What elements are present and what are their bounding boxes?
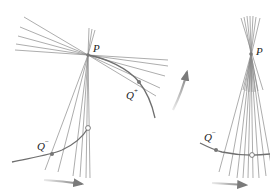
right-curve (200, 143, 270, 155)
label-Q-plus-sup: + (134, 87, 138, 95)
point-Q-minus-left (50, 152, 54, 156)
label-Q-minus-left: Q (37, 140, 45, 152)
motion-arrow-bottom-right-icon (212, 183, 246, 185)
point-Q-minus-right (214, 148, 218, 152)
label-Q-minus-right-sup: − (212, 129, 216, 137)
label-Q-plus: Q (126, 89, 134, 101)
open-circle-right (250, 153, 255, 158)
label-Q-minus-left-sup: − (45, 138, 49, 146)
right-ray-pencil (219, 16, 270, 178)
left-ray-pencil (15, 17, 168, 178)
left-panel: P Q + Q − (12, 17, 187, 184)
motion-arrow-bottom-left-icon (44, 180, 82, 184)
right-panel: P Q − (200, 16, 270, 185)
open-circle-left (86, 126, 91, 131)
label-Q-minus-right: Q (204, 131, 212, 143)
point-P-left (86, 53, 90, 57)
label-P-left: P (92, 42, 100, 54)
label-P-right: P (255, 45, 263, 57)
motion-arrow-upward-icon (173, 72, 187, 110)
point-Q-plus (137, 80, 141, 84)
geometric-diagram: P Q + Q − (0, 0, 270, 192)
point-P-right (249, 52, 253, 56)
